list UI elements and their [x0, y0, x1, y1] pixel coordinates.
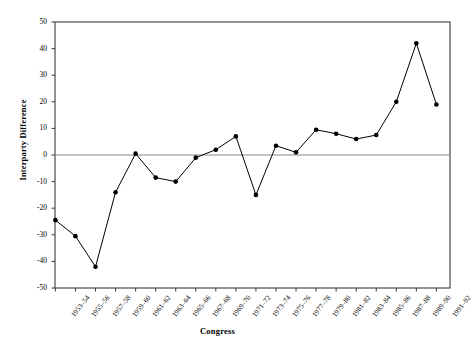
- y-axis-tick-label: -50: [25, 283, 47, 292]
- data-point-marker: [434, 102, 439, 107]
- data-point-marker: [254, 193, 259, 198]
- data-point-marker: [73, 234, 78, 239]
- data-point-marker: [214, 147, 219, 152]
- data-point-marker: [294, 150, 299, 155]
- data-point-marker: [234, 134, 239, 139]
- data-point-marker: [173, 179, 178, 184]
- data-point-marker: [414, 41, 419, 46]
- data-point-marker: [354, 137, 359, 142]
- data-point-marker: [314, 127, 319, 132]
- data-point-marker: [53, 218, 58, 223]
- data-point-marker: [394, 100, 399, 105]
- y-axis-tick-label: 40: [25, 44, 47, 53]
- y-axis-tick-label: 0: [25, 150, 47, 159]
- data-point-marker: [113, 190, 118, 195]
- data-point-marker: [334, 131, 339, 136]
- y-axis-tick-label: 30: [25, 70, 47, 79]
- y-axis-tick-label: 10: [25, 123, 47, 132]
- y-axis-tick-label: -40: [25, 256, 47, 265]
- y-axis-tick-label: 20: [25, 97, 47, 106]
- data-point-marker: [374, 133, 379, 138]
- y-axis-tick-label: -30: [25, 230, 47, 239]
- data-point-marker: [193, 155, 198, 160]
- y-axis-tick-label: -10: [25, 177, 47, 186]
- data-point-marker: [153, 175, 158, 180]
- x-axis-title: Congress: [200, 326, 235, 336]
- y-axis-tick-label: -20: [25, 203, 47, 212]
- data-point-marker: [93, 264, 98, 269]
- data-point-marker: [274, 143, 279, 148]
- y-axis-tick-label: 50: [25, 17, 47, 26]
- data-point-marker: [133, 151, 138, 156]
- y-axis-title: Interparty Difference: [18, 60, 28, 220]
